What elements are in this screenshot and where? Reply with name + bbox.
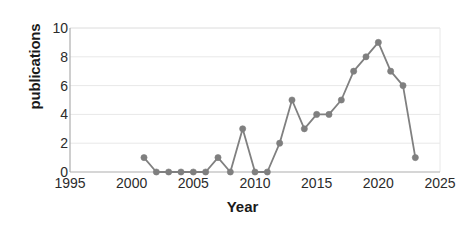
data-point-2022 xyxy=(400,83,406,89)
data-point-2015 xyxy=(314,111,320,117)
data-point-2008 xyxy=(227,169,233,175)
data-point-2007 xyxy=(215,155,221,161)
data-point-2019 xyxy=(363,54,369,60)
line-path-publications xyxy=(144,42,415,172)
x-tick-label-2025: 2025 xyxy=(424,176,455,190)
data-point-2014 xyxy=(301,126,307,132)
x-tick-label-2000: 2000 xyxy=(116,176,147,190)
data-point-2018 xyxy=(351,68,357,74)
data-point-2020 xyxy=(375,39,381,45)
series-line-publications xyxy=(144,42,415,172)
data-point-2021 xyxy=(388,68,394,74)
data-point-2013 xyxy=(289,97,295,103)
data-point-2012 xyxy=(277,140,283,146)
data-point-2003 xyxy=(166,169,172,175)
x-axis-tick-labels: 1995200020052010201520202025 xyxy=(0,176,457,200)
data-point-2023 xyxy=(412,155,418,161)
data-point-2017 xyxy=(338,97,344,103)
x-tick-label-2015: 2015 xyxy=(301,176,332,190)
data-point-2016 xyxy=(326,111,332,117)
publications-per-year-line-chart: publications 0246810 1995200020052010201… xyxy=(0,0,457,245)
axis-lines xyxy=(70,28,440,172)
x-tick-label-2010: 2010 xyxy=(239,176,270,190)
x-axis-title: Year xyxy=(0,198,457,215)
data-point-2001 xyxy=(141,155,147,161)
x-tick-label-2005: 2005 xyxy=(178,176,209,190)
gridlines xyxy=(70,28,440,143)
x-tick-label-2020: 2020 xyxy=(363,176,394,190)
data-point-2009 xyxy=(240,126,246,132)
data-point-2002 xyxy=(153,169,159,175)
series-markers-publications xyxy=(141,39,419,175)
x-tick-label-1995: 1995 xyxy=(54,176,85,190)
